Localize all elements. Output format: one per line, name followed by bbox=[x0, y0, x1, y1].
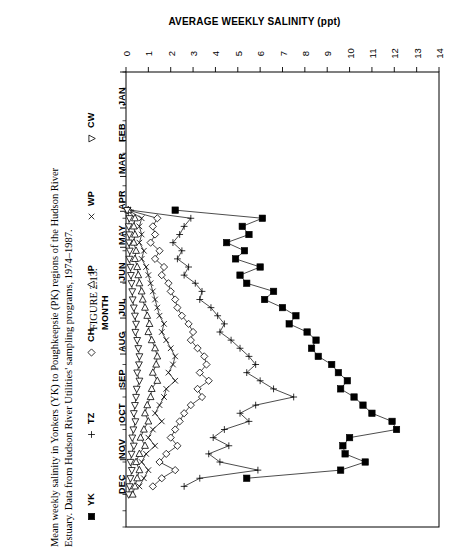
data-point bbox=[155, 305, 161, 311]
data-point bbox=[130, 443, 137, 449]
data-point bbox=[143, 451, 149, 457]
data-point bbox=[142, 304, 149, 310]
data-point bbox=[166, 370, 172, 376]
data-point bbox=[174, 304, 181, 311]
data-point bbox=[257, 264, 263, 270]
data-point bbox=[153, 361, 160, 367]
data-point bbox=[252, 402, 259, 409]
data-point bbox=[163, 386, 169, 392]
data-point bbox=[144, 312, 151, 318]
data-point bbox=[185, 264, 192, 271]
data-point bbox=[136, 354, 143, 360]
data-point bbox=[133, 321, 140, 327]
data-point bbox=[290, 394, 297, 401]
data-point bbox=[196, 475, 203, 482]
data-point bbox=[143, 264, 149, 270]
data-point bbox=[239, 223, 245, 229]
data-point bbox=[130, 305, 137, 311]
data-point bbox=[141, 248, 147, 254]
data-point bbox=[128, 468, 135, 474]
data-point bbox=[134, 263, 141, 269]
data-point bbox=[389, 418, 395, 424]
data-point bbox=[151, 231, 158, 238]
data-point bbox=[146, 272, 152, 278]
data-point bbox=[237, 272, 243, 278]
data-point bbox=[152, 443, 158, 449]
data-point bbox=[174, 255, 181, 262]
data-point bbox=[157, 402, 163, 408]
series-tz bbox=[127, 207, 297, 490]
data-point bbox=[149, 369, 156, 375]
data-point bbox=[136, 450, 143, 456]
data-point bbox=[129, 289, 136, 295]
data-point bbox=[150, 289, 156, 295]
figure-stage: AVERAGE WEEKLY SALINITY (ppt) MONTH FIGU… bbox=[0, 0, 463, 557]
data-point bbox=[136, 279, 143, 285]
data-point bbox=[337, 467, 343, 473]
data-point bbox=[259, 215, 265, 221]
data-point bbox=[168, 345, 174, 351]
data-point bbox=[286, 321, 292, 327]
data-point bbox=[145, 418, 152, 424]
data-point bbox=[148, 336, 155, 342]
data-point bbox=[304, 329, 310, 335]
data-point bbox=[146, 467, 152, 473]
data-point bbox=[172, 354, 178, 360]
data-point bbox=[344, 378, 350, 384]
data-point bbox=[154, 215, 161, 222]
data-point bbox=[205, 450, 212, 457]
data-point bbox=[270, 288, 276, 294]
data-point bbox=[148, 280, 154, 286]
data-point bbox=[342, 451, 348, 457]
data-point bbox=[133, 394, 140, 400]
data-point bbox=[351, 394, 357, 400]
data-point bbox=[139, 232, 145, 238]
data-point bbox=[172, 207, 178, 213]
data-point bbox=[139, 459, 145, 465]
data-point bbox=[328, 361, 334, 367]
data-point bbox=[128, 281, 135, 287]
data-point bbox=[167, 288, 174, 295]
data-point bbox=[362, 459, 368, 465]
data-point bbox=[255, 467, 262, 474]
data-point bbox=[139, 296, 146, 302]
data-point bbox=[157, 313, 163, 319]
data-point bbox=[337, 386, 343, 392]
data-point bbox=[159, 329, 165, 335]
data-point bbox=[147, 393, 154, 399]
data-point bbox=[313, 337, 319, 343]
data-point bbox=[196, 296, 203, 303]
data-point bbox=[136, 362, 143, 368]
data-point bbox=[257, 377, 264, 384]
data-point bbox=[170, 362, 176, 368]
plot-area bbox=[0, 0, 463, 557]
data-point bbox=[293, 313, 299, 319]
data-point bbox=[315, 353, 321, 359]
data-point bbox=[246, 231, 252, 237]
data-point bbox=[144, 401, 151, 407]
data-point bbox=[161, 321, 167, 327]
data-point bbox=[393, 426, 399, 432]
data-point bbox=[136, 466, 143, 472]
data-point bbox=[146, 435, 152, 441]
series-yk bbox=[172, 207, 400, 482]
data-point bbox=[133, 386, 140, 392]
data-point bbox=[335, 369, 341, 375]
data-point bbox=[181, 483, 188, 490]
data-point bbox=[134, 370, 141, 376]
data-point bbox=[217, 329, 224, 336]
data-point bbox=[270, 385, 277, 392]
data-point bbox=[141, 475, 147, 481]
data-point bbox=[346, 434, 352, 440]
data-point bbox=[127, 264, 134, 270]
data-point bbox=[136, 378, 143, 384]
data-point bbox=[138, 288, 145, 294]
data-point bbox=[128, 451, 135, 457]
data-point bbox=[140, 426, 147, 432]
data-point bbox=[146, 320, 153, 326]
data-point bbox=[244, 280, 250, 286]
data-point bbox=[139, 215, 145, 221]
data-point bbox=[161, 394, 167, 400]
data-point bbox=[137, 240, 143, 246]
data-point bbox=[145, 328, 152, 334]
